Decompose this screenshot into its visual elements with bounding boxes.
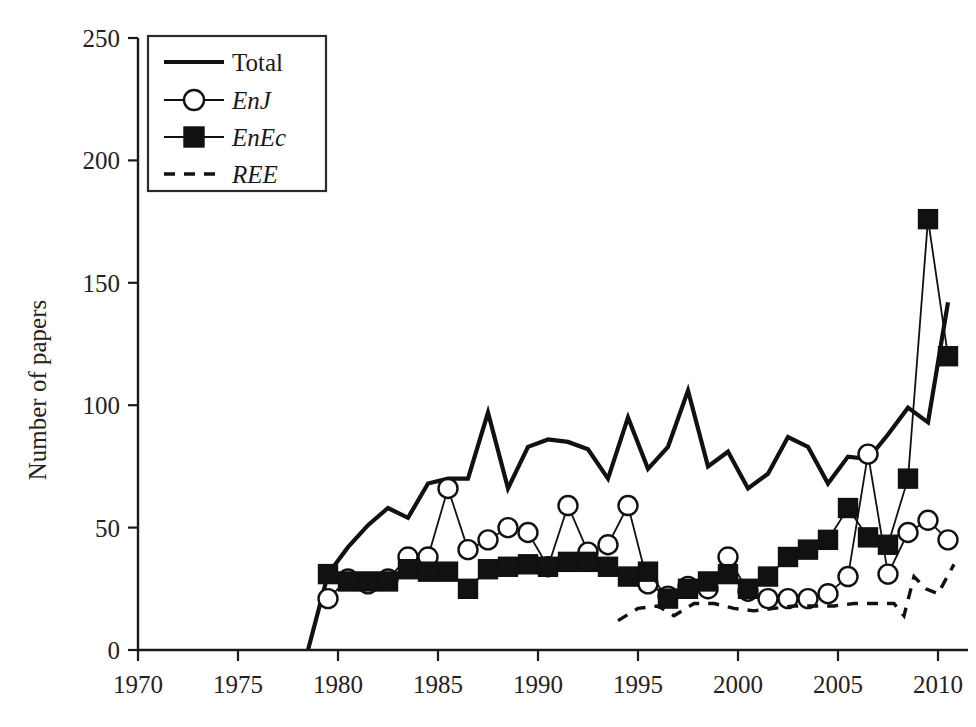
y-tick-label: 150 (83, 270, 121, 297)
x-tick-label: 2005 (813, 671, 863, 698)
data-point-enec (799, 540, 818, 559)
data-point-enec (939, 347, 958, 366)
legend-label-ree: REE (231, 161, 278, 188)
data-point-enj (939, 530, 958, 549)
data-point-enec (439, 562, 458, 581)
data-point-enec (579, 552, 598, 571)
y-tick-label: 0 (108, 637, 121, 664)
series-layer (308, 210, 958, 650)
data-point-enec (479, 560, 498, 579)
data-point-enj (319, 589, 338, 608)
y-tick-label: 250 (83, 25, 121, 52)
data-point-enec (639, 562, 658, 581)
data-point-enec (679, 579, 698, 598)
data-point-enj (859, 445, 878, 464)
data-point-enec (599, 557, 618, 576)
legend-label-total: Total (232, 49, 283, 76)
x-tick-label: 2010 (913, 671, 963, 698)
x-axis-tick-labels: 197019751980198519901995200020052010 (113, 671, 963, 698)
data-point-enj (919, 511, 938, 530)
x-tick-label: 1975 (213, 671, 263, 698)
y-tick-label: 50 (95, 515, 120, 542)
data-point-enj (719, 547, 738, 566)
data-point-enec (759, 567, 778, 586)
x-axis-ticks (138, 650, 938, 661)
series-line-total (308, 302, 948, 650)
x-tick-label: 1990 (513, 671, 563, 698)
legend: Total EnJ EnEc REE (148, 36, 326, 191)
data-point-enec (919, 210, 938, 229)
data-point-enec (659, 589, 678, 608)
y-tick-label: 100 (83, 392, 121, 419)
y-axis-title: Number of papers (24, 300, 51, 481)
y-axis-ticks (128, 38, 138, 650)
data-point-enec (899, 469, 918, 488)
legend-label-enec: EnEc (231, 124, 286, 151)
legend-swatch-enj-marker (184, 90, 204, 110)
data-point-enj (759, 589, 778, 608)
data-point-enec (819, 530, 838, 549)
data-point-enj (499, 518, 518, 537)
data-point-enec (739, 579, 758, 598)
data-point-enj (439, 479, 458, 498)
y-axis-tick-labels: 050100150200250 (83, 25, 121, 664)
x-tick-label: 1980 (313, 671, 363, 698)
data-point-enj (459, 540, 478, 559)
data-point-enj (819, 584, 838, 603)
data-point-enj (599, 535, 618, 554)
data-point-enec (419, 562, 438, 581)
data-point-enec (619, 567, 638, 586)
data-point-enec (859, 528, 878, 547)
data-point-enj (619, 496, 638, 515)
data-point-enec (719, 565, 738, 584)
data-point-enec (539, 557, 558, 576)
data-point-enj (559, 496, 578, 515)
x-tick-label: 1985 (413, 671, 463, 698)
data-point-enec (499, 557, 518, 576)
data-point-enec (779, 547, 798, 566)
data-point-enec (699, 572, 718, 591)
data-point-enec (399, 560, 418, 579)
data-point-enj (479, 530, 498, 549)
data-point-enj (519, 523, 538, 542)
chart-container: 050100150200250 197019751980198519901995… (0, 0, 976, 727)
legend-label-enj: EnJ (231, 87, 273, 114)
x-tick-label: 2000 (713, 671, 763, 698)
data-point-enec (319, 565, 338, 584)
data-point-enj (899, 523, 918, 542)
x-tick-label: 1995 (613, 671, 663, 698)
line-chart: 050100150200250 197019751980198519901995… (0, 0, 976, 727)
x-tick-label: 1970 (113, 671, 163, 698)
data-point-enec (519, 555, 538, 574)
data-point-enec (879, 535, 898, 554)
data-point-enec (559, 552, 578, 571)
data-point-enec (359, 572, 378, 591)
data-point-enec (839, 499, 858, 518)
legend-swatch-enec-marker (184, 127, 204, 147)
data-point-enec (459, 579, 478, 598)
data-point-enec (379, 572, 398, 591)
data-point-enj (839, 567, 858, 586)
data-point-enj (879, 565, 898, 584)
y-tick-label: 200 (83, 147, 121, 174)
data-point-enec (339, 572, 358, 591)
